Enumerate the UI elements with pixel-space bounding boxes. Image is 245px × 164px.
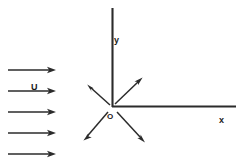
x-axis-label: x xyxy=(219,116,224,125)
radial-arrow-up-left-shaft xyxy=(91,88,111,106)
flow-velocity-label: U xyxy=(31,83,38,92)
flow-diagram-figure: y x O U xyxy=(0,0,245,164)
radial-arrow-down-right xyxy=(117,112,145,142)
origin-label: O xyxy=(107,113,113,121)
radial-arrow-up-right-shaft xyxy=(115,81,139,104)
flow-arrow-4 xyxy=(8,130,56,136)
coordinate-axes xyxy=(112,8,236,107)
radial-arrow-down-right-shaft xyxy=(117,112,141,138)
y-axis-label: y xyxy=(114,36,119,45)
radial-arrow-up-left-head xyxy=(87,85,93,93)
radial-arrow-down-left-head xyxy=(83,133,91,140)
flow-arrow-5 xyxy=(8,151,56,157)
flow-arrow-1 xyxy=(8,67,56,73)
radial-arrow-down-left-shaft xyxy=(87,112,108,137)
radial-arrow-up-left xyxy=(87,85,110,105)
radial-arrow-down-left xyxy=(83,112,108,141)
radial-arrow-up-right xyxy=(115,78,143,104)
uniform-flow-arrow-group xyxy=(8,67,56,157)
flow-arrow-3 xyxy=(8,109,56,115)
radial-arrow-group xyxy=(83,78,145,143)
